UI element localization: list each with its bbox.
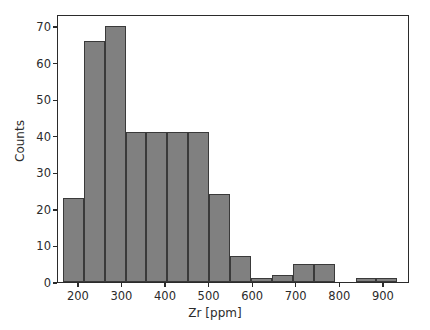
x-axis-tick-label: 400	[145, 289, 185, 303]
histogram-bar	[272, 275, 293, 282]
y-axis-tick	[53, 209, 57, 210]
y-axis-tick	[53, 136, 57, 137]
x-axis-tick	[121, 283, 122, 287]
histogram-bar	[376, 278, 397, 282]
histogram-bar	[209, 194, 230, 282]
x-axis-tick	[339, 283, 340, 287]
histogram-bar	[356, 278, 377, 282]
plot-area	[57, 15, 409, 283]
y-axis-tick	[53, 63, 57, 64]
x-axis-tick	[77, 283, 78, 287]
histogram-bar	[251, 278, 272, 282]
x-axis-tick	[252, 283, 253, 287]
x-axis-tick-label: 800	[319, 289, 359, 303]
histogram-bar	[314, 264, 335, 282]
y-axis-tick	[53, 173, 57, 174]
histogram-bar	[293, 264, 314, 282]
x-axis-tick-label: 700	[276, 289, 316, 303]
x-axis-tick-label: 300	[101, 289, 141, 303]
x-axis-tick	[208, 283, 209, 287]
histogram-bar	[105, 26, 126, 282]
y-axis-label: Counts	[13, 7, 27, 275]
histogram-bar	[167, 132, 188, 282]
y-axis-tick	[53, 26, 57, 27]
histogram-bar	[126, 132, 147, 282]
x-axis-label: Zr [ppm]	[0, 306, 430, 320]
histogram-bar	[63, 198, 84, 282]
y-axis-tick	[53, 246, 57, 247]
histogram-bar	[230, 256, 251, 282]
histogram-bar	[84, 41, 105, 282]
histogram-bar	[146, 132, 167, 282]
x-axis-tick-label: 600	[232, 289, 272, 303]
y-axis-tick	[53, 100, 57, 101]
x-axis-tick	[382, 283, 383, 287]
y-axis-tick	[53, 282, 57, 283]
y-axis-tick-label: 0	[11, 277, 51, 289]
x-axis-tick-label: 200	[58, 289, 98, 303]
x-axis-tick	[164, 283, 165, 287]
x-axis-tick	[295, 283, 296, 287]
x-axis-tick-label: 900	[363, 289, 403, 303]
histogram-figure: 200300400500600700800900 010203040506070…	[0, 0, 430, 330]
histogram-bar	[188, 132, 209, 282]
x-axis-tick-label: 500	[189, 289, 229, 303]
